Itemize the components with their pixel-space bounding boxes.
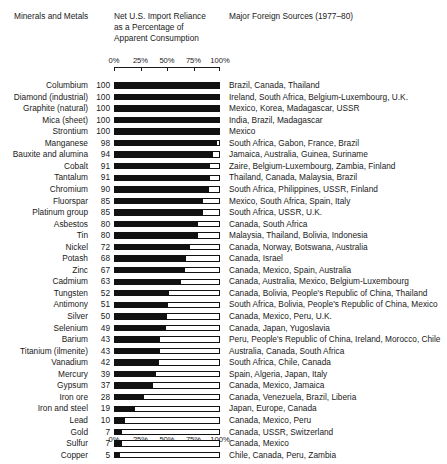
mineral-name: Tantalum	[0, 173, 88, 182]
mineral-name: Barium	[0, 335, 88, 344]
reliance-value: 90	[88, 185, 110, 194]
reliance-value: 28	[88, 393, 110, 402]
reliance-value: 43	[88, 335, 110, 344]
foreign-sources: South Africa, USSR, U.K.	[229, 208, 322, 217]
reliance-bar-fill	[115, 383, 153, 387]
reliance-bar	[114, 267, 220, 273]
reliance-bar	[114, 198, 220, 204]
reliance-value: 42	[88, 358, 110, 367]
axis-tick-label: 25%	[133, 56, 148, 65]
column-header-minerals: Minerals and Metals	[14, 11, 88, 21]
mineral-name: Lead	[0, 416, 88, 425]
reliance-bar-fill	[115, 164, 210, 168]
reliance-value: 68	[88, 254, 110, 263]
reliance-value: 91	[88, 162, 110, 171]
reliance-bar	[114, 452, 220, 458]
reliance-bar	[114, 371, 220, 377]
foreign-sources: India, Brazil, Madagascar	[229, 116, 323, 125]
reliance-bar-fill	[115, 372, 156, 376]
axis-tick-label: 50%	[159, 56, 174, 65]
reliance-value: 37	[88, 381, 110, 390]
chart-row: Potash68Canada, Israel	[0, 254, 447, 266]
axis-tick-label: 75%	[186, 56, 201, 65]
reliance-bar	[114, 105, 220, 111]
chart-row: Iron and steel19Japan, Europe, Canada	[0, 404, 447, 416]
mineral-name: Manganese	[0, 139, 88, 148]
axis-top: 0%25%50%75%100%	[114, 57, 220, 71]
reliance-value: 100	[88, 81, 110, 90]
column-header-reliance: Net U.S. Import Reliance as a Percentage…	[114, 11, 226, 45]
reliance-bar	[114, 382, 220, 388]
foreign-sources: Mexico	[229, 127, 255, 136]
reliance-value: 51	[88, 300, 110, 309]
reliance-value: 5	[88, 451, 110, 460]
foreign-sources: Mexico, Korea, Madagascar, USSR	[229, 104, 360, 113]
reliance-value: 98	[88, 139, 110, 148]
reliance-bar-fill	[115, 222, 198, 226]
chart-row: Copper5Chile, Canada, Peru, Zambia	[0, 451, 447, 463]
mineral-name: Platinum group	[0, 208, 88, 217]
reliance-value: 100	[88, 93, 110, 102]
reliance-value: 7	[88, 428, 110, 437]
reliance-value: 91	[88, 173, 110, 182]
mineral-name: Selenium	[0, 324, 88, 333]
reliance-bar-fill	[115, 106, 219, 110]
mineral-name: Strontium	[0, 127, 88, 136]
reliance-value: 80	[88, 231, 110, 240]
reliance-bar	[114, 440, 220, 446]
reliance-bar-fill	[115, 141, 217, 145]
reliance-bar	[114, 429, 220, 435]
reliance-bar	[114, 325, 220, 331]
reliance-value: 50	[88, 312, 110, 321]
reliance-bar	[114, 244, 220, 250]
mineral-name: Silver	[0, 312, 88, 321]
reliance-bar-fill	[115, 418, 125, 422]
foreign-sources: Zaire, Belgium-Luxembourg, Zambia, Finla…	[229, 162, 395, 171]
foreign-sources: Australia, Canada, South Africa	[229, 347, 344, 356]
mineral-name: Iron and steel	[0, 404, 88, 413]
foreign-sources: Canada, Mexico, Jamaica	[229, 381, 324, 390]
foreign-sources: Canada, Mexico, Peru, U.K.	[229, 312, 332, 321]
mineral-name: Cobalt	[0, 162, 88, 171]
foreign-sources: Spain, Algeria, Japan, Italy	[229, 370, 327, 379]
chart-row: Columbium100Brazil, Canada, Thailand	[0, 81, 447, 93]
reliance-bar	[114, 313, 220, 319]
mineral-name: Cadmium	[0, 277, 88, 286]
axis-tick	[167, 67, 168, 71]
reliance-bar-fill	[115, 83, 219, 87]
mineral-name: Iron ore	[0, 393, 88, 402]
reliance-value: 52	[88, 289, 110, 298]
reliance-bar	[114, 417, 220, 423]
reliance-bar	[114, 290, 220, 296]
axis-tick	[194, 67, 195, 71]
reliance-bar	[114, 232, 220, 238]
chart-row: Barium43Peru, People's Republic of China…	[0, 335, 447, 347]
reliance-bar-fill	[115, 256, 186, 260]
foreign-sources: Brazil, Canada, Thailand	[229, 81, 320, 90]
reliance-bar-fill	[115, 176, 210, 180]
foreign-sources: Japan, Europe, Canada	[229, 404, 317, 413]
reliance-bar	[114, 406, 220, 412]
reliance-value: 19	[88, 404, 110, 413]
reliance-bar-fill	[115, 441, 122, 445]
reliance-value: 7	[88, 439, 110, 448]
reliance-value: 10	[88, 416, 110, 425]
column-header-reliance-line1: Net U.S. Import Reliance	[114, 11, 226, 22]
foreign-sources: South Africa, Gabon, France, Brazil	[229, 139, 359, 148]
reliance-bar-fill	[115, 303, 168, 307]
reliance-bar-fill	[115, 210, 203, 214]
reliance-bar	[114, 163, 220, 169]
foreign-sources: Malaysia, Thailand, Bolivia, Indonesia	[229, 231, 368, 240]
reliance-bar-fill	[115, 129, 219, 133]
reliance-bar	[114, 394, 220, 400]
foreign-sources: Canada, Mexico, Peru	[229, 416, 311, 425]
foreign-sources: Ireland, South Africa, Belgium-Luxembour…	[229, 93, 408, 102]
chart-row: Strontium100Mexico	[0, 127, 447, 139]
mineral-name: Bauxite and alumina	[0, 150, 88, 159]
axis-tick	[141, 67, 142, 71]
mineral-name: Potash	[0, 254, 88, 263]
axis-tick	[219, 67, 220, 71]
reliance-bar	[114, 209, 220, 215]
reliance-bar	[114, 175, 220, 181]
foreign-sources: South Africa, Chile, Canada	[229, 358, 331, 367]
